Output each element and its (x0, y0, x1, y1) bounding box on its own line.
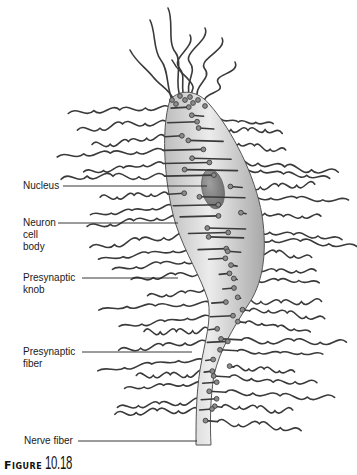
label-nucleus: Nucleus (23, 180, 59, 192)
label-neuron-cell-body: Neuron cell body (23, 217, 56, 253)
label-nerve-fiber: Nerve fiber (24, 435, 73, 447)
figure-caption-word: Figure (4, 459, 42, 472)
label-presynaptic-knob: Presynaptic knob (23, 272, 75, 296)
label-presynaptic-fiber: Presynaptic fiber (23, 346, 75, 370)
figure-caption-number: 10.18 (45, 452, 72, 474)
figure-caption: Figure10.18 (4, 452, 90, 474)
